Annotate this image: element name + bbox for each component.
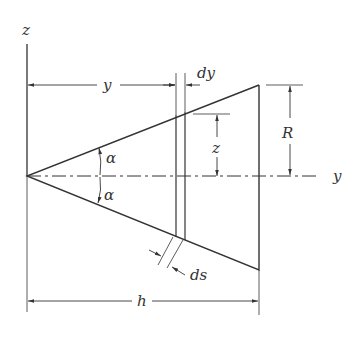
ds-dimension-label: ds [190,266,208,284]
alpha-top-arc [99,148,101,175]
y-dimension-label: y [102,76,112,94]
alpha-top-label: α [106,149,116,167]
y-axis-label: y [332,167,342,185]
alpha-bottom-label: α [104,186,114,204]
cone-outline [27,85,259,270]
z-dimension-label: z [211,139,220,157]
dy-dimension-label: dy [197,64,216,82]
R-dimension-label: R [281,124,293,142]
h-dimension-label: h [137,292,147,310]
alpha-bottom-arc [98,177,101,203]
cone-diagram: z y y dy z R α α ds h [0,0,361,346]
z-axis-label: z [21,21,30,39]
